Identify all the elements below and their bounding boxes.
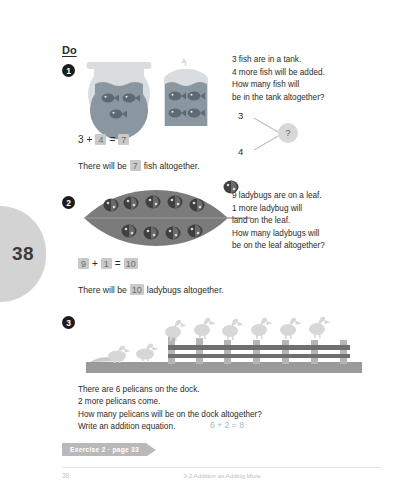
eq2-addend-a-box[interactable]: 9 — [78, 258, 89, 269]
page-content: Do 1 — [62, 0, 382, 496]
exercise-number-1: 1 — [62, 64, 75, 77]
eq2-addend-b-box[interactable]: 1 — [101, 258, 112, 269]
number-bond-part-top: 3 — [238, 110, 243, 121]
textbook-page: 38 Do 1 — [0, 0, 402, 496]
footer-divider — [62, 467, 382, 468]
number-bond-whole: ? — [278, 123, 298, 143]
exercise-2-sentence: There will be 10 ladybugs altogether. — [78, 284, 224, 295]
exercise-banner[interactable]: Exercise 2 · page 33 — [62, 443, 156, 456]
eq2-plus: + — [92, 258, 98, 269]
exercise-2-sentence-answer-box[interactable]: 10 — [130, 284, 144, 295]
exercise-1-sentence-after: fish altogether. — [144, 161, 200, 171]
exercise-number-2: 2 — [62, 196, 75, 209]
exercise-2-sentence-after: ladybugs altogether. — [147, 285, 224, 295]
ladybug-leaf-illustration — [76, 186, 256, 252]
page-number-tab-label: 38 — [12, 243, 34, 265]
exercise-2-story: 9 ladybugs are on a leaf. 1 more ladybug… — [232, 190, 382, 253]
fish-tanks-illustration — [76, 54, 226, 130]
exercise-banner-arrow-icon — [147, 444, 156, 456]
exercise-2-sentence-before: There will be — [78, 285, 127, 295]
footer-chapter-title: 3-2 Addition as Adding More — [62, 472, 382, 479]
pelicans-dock-illustration — [72, 310, 372, 382]
eq1-addend-a: 3 — [78, 134, 84, 145]
exercise-banner-label: Exercise 2 · page 33 — [62, 443, 147, 456]
eq1-sum-box[interactable]: 7 — [118, 134, 129, 145]
eq1-equals: = — [109, 134, 115, 145]
eq1-plus: + — [87, 134, 93, 145]
number-bond-part-bottom: 4 — [238, 146, 243, 157]
eq2-equals: = — [115, 258, 121, 269]
eq2-sum-box[interactable]: 10 — [124, 258, 138, 269]
exercise-1-sentence-answer-box[interactable]: 7 — [130, 160, 141, 171]
exercise-2-equation: 9 + 1 = 10 — [78, 258, 138, 269]
page-number-tab: 38 — [0, 206, 46, 302]
exercise-3-equation[interactable]: 6 + 2 = 8 — [210, 420, 244, 430]
exercise-1-story: 3 fish are in a tank. 4 more fish will b… — [232, 54, 382, 104]
exercise-1-sentence-before: There will be — [78, 161, 127, 171]
exercise-1-sentence: There will be 7 fish altogether. — [78, 160, 200, 171]
number-bond-diagram: 3 4 ? — [234, 108, 324, 162]
exercise-1-equation: 3 + 4 = 7 — [78, 134, 129, 145]
eq1-addend-b-box[interactable]: 4 — [95, 134, 106, 145]
do-heading: Do — [62, 44, 77, 56]
